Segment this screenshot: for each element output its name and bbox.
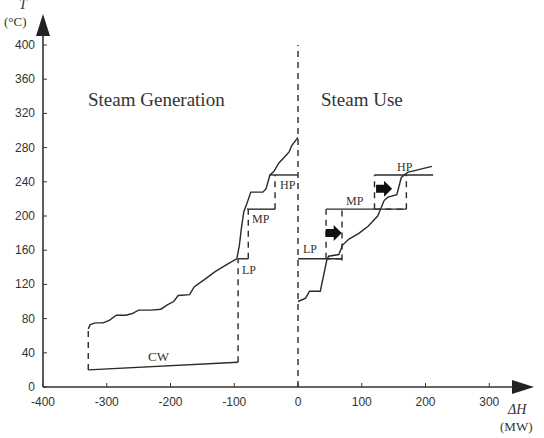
right-arrow-icon xyxy=(376,181,392,197)
y-tick-label: 40 xyxy=(22,346,36,360)
right-arrow-icon xyxy=(326,225,342,241)
x-tick-label: -100 xyxy=(222,395,246,409)
y-tick-label: 120 xyxy=(15,277,35,291)
y-axis-arrowhead-icon xyxy=(36,14,50,36)
composite-curve-chart: -400-300-200-100010020030004080120160200… xyxy=(0,0,544,438)
y-axis-symbol: T xyxy=(19,0,28,12)
use-lp-label: LP xyxy=(303,242,317,256)
y-tick-label: 0 xyxy=(28,380,35,394)
y-axis-unit: (°C) xyxy=(4,14,27,29)
data-series xyxy=(88,137,432,370)
x-tick-label: -400 xyxy=(31,395,55,409)
y-tick-label: 160 xyxy=(15,243,35,257)
shift-arrows xyxy=(326,181,392,241)
y-tick-label: 280 xyxy=(15,141,35,155)
use-hp-label: HP xyxy=(397,160,413,174)
use-mp-label: MP xyxy=(346,194,364,208)
cw-label: CW xyxy=(148,349,170,364)
steam-generation-label: Steam Generation xyxy=(88,89,225,110)
y-tick-label: 320 xyxy=(15,106,35,120)
gen-mp-label: MP xyxy=(252,212,270,226)
x-tick-label: 300 xyxy=(479,395,499,409)
y-tick-label: 360 xyxy=(15,72,35,86)
x-tick-label: 200 xyxy=(415,395,435,409)
gen-lp-label: LP xyxy=(242,263,256,277)
x-tick-label: -300 xyxy=(95,395,119,409)
x-tick-label: 0 xyxy=(295,395,302,409)
x-tick-label: -200 xyxy=(158,395,182,409)
axes xyxy=(36,14,534,394)
x-tick-label: 100 xyxy=(352,395,372,409)
y-tick-label: 400 xyxy=(15,38,35,52)
x-axis-arrowhead-icon xyxy=(512,380,534,394)
y-tick-label: 80 xyxy=(22,312,36,326)
steam-use-label: Steam Use xyxy=(321,89,403,110)
generation-curve xyxy=(88,137,298,329)
gen-hp-label: HP xyxy=(280,178,296,192)
y-tick-label: 240 xyxy=(15,175,35,189)
use-curve xyxy=(298,166,432,301)
x-axis-symbol: ΔH xyxy=(507,402,527,417)
y-tick-label: 200 xyxy=(15,209,35,223)
x-axis-unit: (MW) xyxy=(500,419,533,434)
